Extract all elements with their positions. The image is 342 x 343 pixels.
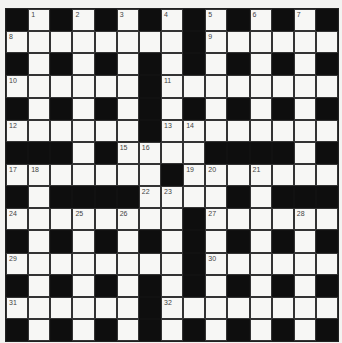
crossword-cell[interactable]	[272, 75, 294, 97]
crossword-cell[interactable]	[72, 98, 94, 120]
crossword-cell[interactable]	[205, 98, 227, 120]
crossword-cell[interactable]: 4	[161, 9, 183, 31]
crossword-cell[interactable]	[316, 164, 338, 186]
crossword-cell[interactable]	[95, 164, 117, 186]
crossword-cell[interactable]	[28, 208, 50, 230]
crossword-cell[interactable]	[117, 253, 139, 275]
crossword-cell[interactable]: 3	[117, 9, 139, 31]
crossword-cell[interactable]	[294, 275, 316, 297]
crossword-cell[interactable]	[272, 253, 294, 275]
crossword-cell[interactable]	[250, 31, 272, 53]
crossword-cell[interactable]	[205, 75, 227, 97]
crossword-cell[interactable]: 26	[117, 208, 139, 230]
crossword-cell[interactable]	[294, 75, 316, 97]
crossword-cell[interactable]	[117, 297, 139, 319]
crossword-cell[interactable]	[50, 208, 72, 230]
crossword-cell[interactable]	[250, 253, 272, 275]
crossword-cell[interactable]: 16	[139, 142, 161, 164]
crossword-cell[interactable]	[161, 142, 183, 164]
crossword-cell[interactable]	[139, 164, 161, 186]
crossword-cell[interactable]: 15	[117, 142, 139, 164]
crossword-cell[interactable]: 5	[205, 9, 227, 31]
crossword-cell[interactable]	[50, 253, 72, 275]
crossword-cell[interactable]	[205, 186, 227, 208]
crossword-cell[interactable]	[117, 75, 139, 97]
crossword-cell[interactable]	[139, 208, 161, 230]
crossword-cell[interactable]: 14	[183, 120, 205, 142]
crossword-cell[interactable]: 8	[6, 31, 28, 53]
crossword-cell[interactable]	[227, 164, 249, 186]
crossword-cell[interactable]	[28, 75, 50, 97]
crossword-cell[interactable]: 21	[250, 164, 272, 186]
crossword-cell[interactable]	[183, 142, 205, 164]
crossword-cell[interactable]	[72, 142, 94, 164]
crossword-cell[interactable]: 22	[139, 186, 161, 208]
crossword-cell[interactable]	[294, 253, 316, 275]
crossword-cell[interactable]	[272, 120, 294, 142]
crossword-cell[interactable]	[161, 253, 183, 275]
crossword-cell[interactable]: 17	[6, 164, 28, 186]
crossword-cell[interactable]	[272, 31, 294, 53]
crossword-cell[interactable]: 18	[28, 164, 50, 186]
crossword-cell[interactable]	[72, 120, 94, 142]
crossword-cell[interactable]	[161, 208, 183, 230]
crossword-cell[interactable]: 11	[161, 75, 183, 97]
crossword-cell[interactable]	[139, 31, 161, 53]
crossword-cell[interactable]: 12	[6, 120, 28, 142]
crossword-cell[interactable]	[272, 208, 294, 230]
crossword-cell[interactable]	[95, 120, 117, 142]
crossword-cell[interactable]	[250, 120, 272, 142]
crossword-cell[interactable]: 6	[250, 9, 272, 31]
crossword-cell[interactable]	[117, 275, 139, 297]
crossword-cell[interactable]	[28, 120, 50, 142]
crossword-cell[interactable]	[272, 164, 294, 186]
crossword-cell[interactable]	[117, 53, 139, 75]
crossword-cell[interactable]	[294, 230, 316, 252]
crossword-cell[interactable]	[139, 253, 161, 275]
crossword-cell[interactable]	[50, 297, 72, 319]
crossword-cell[interactable]	[250, 297, 272, 319]
crossword-cell[interactable]	[316, 120, 338, 142]
crossword-cell[interactable]	[294, 164, 316, 186]
crossword-cell[interactable]	[205, 53, 227, 75]
crossword-cell[interactable]: 9	[205, 31, 227, 53]
crossword-cell[interactable]	[294, 142, 316, 164]
crossword-cell[interactable]: 1	[28, 9, 50, 31]
crossword-cell[interactable]	[294, 31, 316, 53]
crossword-cell[interactable]: 25	[72, 208, 94, 230]
crossword-cell[interactable]	[72, 319, 94, 341]
crossword-cell[interactable]	[227, 297, 249, 319]
crossword-cell[interactable]	[72, 75, 94, 97]
crossword-cell[interactable]: 24	[6, 208, 28, 230]
crossword-cell[interactable]	[183, 297, 205, 319]
crossword-cell[interactable]	[294, 120, 316, 142]
crossword-cell[interactable]	[316, 31, 338, 53]
crossword-cell[interactable]	[161, 53, 183, 75]
crossword-cell[interactable]	[117, 230, 139, 252]
crossword-cell[interactable]	[250, 230, 272, 252]
crossword-cell[interactable]	[72, 53, 94, 75]
crossword-cell[interactable]	[50, 120, 72, 142]
crossword-cell[interactable]	[50, 31, 72, 53]
crossword-cell[interactable]: 13	[161, 120, 183, 142]
crossword-cell[interactable]	[28, 275, 50, 297]
crossword-cell[interactable]	[28, 253, 50, 275]
crossword-cell[interactable]	[294, 53, 316, 75]
crossword-cell[interactable]	[183, 186, 205, 208]
crossword-cell[interactable]	[72, 297, 94, 319]
crossword-cell[interactable]	[50, 75, 72, 97]
crossword-cell[interactable]: 10	[6, 75, 28, 97]
crossword-cell[interactable]	[161, 98, 183, 120]
crossword-cell[interactable]	[316, 297, 338, 319]
crossword-cell[interactable]	[95, 75, 117, 97]
crossword-cell[interactable]	[72, 31, 94, 53]
crossword-cell[interactable]: 19	[183, 164, 205, 186]
crossword-cell[interactable]	[250, 186, 272, 208]
crossword-cell[interactable]	[294, 319, 316, 341]
crossword-cell[interactable]	[205, 120, 227, 142]
crossword-cell[interactable]	[117, 164, 139, 186]
crossword-cell[interactable]	[205, 230, 227, 252]
crossword-cell[interactable]	[161, 31, 183, 53]
crossword-cell[interactable]	[117, 120, 139, 142]
crossword-cell[interactable]: 23	[161, 186, 183, 208]
